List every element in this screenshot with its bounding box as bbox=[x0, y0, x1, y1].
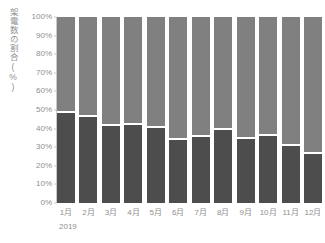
bar-column[interactable]: 6月 bbox=[169, 17, 187, 203]
y-axis-tick-label: 80% bbox=[36, 50, 52, 58]
bar-segment-upper[interactable] bbox=[237, 17, 255, 137]
bar-segment-upper[interactable] bbox=[124, 17, 142, 123]
bar-segment-lower[interactable] bbox=[57, 113, 75, 203]
bar-column[interactable]: 1月 bbox=[57, 17, 75, 203]
bar-column[interactable]: 5月 bbox=[147, 17, 165, 203]
bar-segment-upper[interactable] bbox=[259, 17, 277, 134]
bar-column[interactable]: 3月 bbox=[102, 17, 120, 203]
x-axis-tick-label: 5月 bbox=[150, 208, 162, 217]
bar-segment-lower[interactable] bbox=[124, 125, 142, 203]
bar-segment-lower[interactable] bbox=[169, 140, 187, 203]
x-axis-tick-label: 6月 bbox=[172, 208, 184, 217]
bar-segment-lower[interactable] bbox=[102, 126, 120, 203]
y-axis-title: 架電数の割合(%) bbox=[2, 8, 18, 128]
bar-segment-lower[interactable] bbox=[79, 117, 97, 203]
y-axis-tick-label: 0% bbox=[40, 199, 52, 207]
bar-group: 1月2月3月4月5月6月7月8月9月10月11月12月 bbox=[57, 17, 322, 203]
x-axis-tick-label: 2月 bbox=[82, 208, 94, 217]
x-axis-tick-label: 3月 bbox=[105, 208, 117, 217]
bar-segment-lower[interactable] bbox=[304, 154, 322, 203]
bar-column[interactable]: 2月 bbox=[79, 17, 97, 203]
bar-column[interactable]: 8月 bbox=[214, 17, 232, 203]
bar-segment-upper[interactable] bbox=[79, 17, 97, 115]
bar-column[interactable]: 7月 bbox=[192, 17, 210, 203]
y-axis-tick-label: 20% bbox=[36, 162, 52, 170]
x-axis-tick-label: 12月 bbox=[305, 208, 322, 217]
bar-segment-lower[interactable] bbox=[282, 146, 300, 203]
bar-segment-lower[interactable] bbox=[259, 136, 277, 203]
y-axis-tick-label: 70% bbox=[36, 69, 52, 77]
x-axis-tick-label: 4月 bbox=[127, 208, 139, 217]
y-axis-tick-label: 30% bbox=[36, 143, 52, 151]
bar-segment-lower[interactable] bbox=[237, 139, 255, 203]
bar-segment-upper[interactable] bbox=[169, 17, 187, 138]
bar-segment-upper[interactable] bbox=[282, 17, 300, 144]
period-label: 2019 bbox=[59, 222, 77, 231]
y-axis-tick-label: 10% bbox=[36, 180, 52, 188]
x-axis-tick-label: 10月 bbox=[260, 208, 277, 217]
bar-column[interactable]: 9月 bbox=[237, 17, 255, 203]
x-axis-tick-label: 9月 bbox=[239, 208, 251, 217]
bar-column[interactable]: 10月 bbox=[259, 17, 277, 203]
bar-segment-upper[interactable] bbox=[192, 17, 210, 135]
bar-segment-upper[interactable] bbox=[102, 17, 120, 124]
bar-segment-lower[interactable] bbox=[147, 128, 165, 203]
bar-column[interactable]: 12月 bbox=[304, 17, 322, 203]
bar-segment-upper[interactable] bbox=[214, 17, 232, 128]
bar-column[interactable]: 4月 bbox=[124, 17, 142, 203]
y-axis-tick-label: 50% bbox=[36, 106, 52, 114]
y-axis-tick-label: 100% bbox=[32, 13, 52, 21]
x-axis-tick-label: 11月 bbox=[282, 208, 298, 217]
bar-column[interactable]: 11月 bbox=[282, 17, 300, 203]
x-axis-tick-label: 7月 bbox=[194, 208, 206, 217]
bar-segment-upper[interactable] bbox=[57, 17, 75, 111]
plot-area: 0%10%20%30%40%50%60%70%80%90%100% 1月2月3月… bbox=[57, 17, 322, 203]
bar-segment-lower[interactable] bbox=[214, 130, 232, 203]
x-axis-tick-label: 1月 bbox=[60, 208, 72, 217]
y-axis-tick-label: 60% bbox=[36, 87, 52, 95]
x-axis-tick-label: 8月 bbox=[217, 208, 229, 217]
y-axis-tick-label: 90% bbox=[36, 32, 52, 40]
bar-segment-lower[interactable] bbox=[192, 137, 210, 203]
y-axis-tick-label: 40% bbox=[36, 125, 52, 133]
bar-segment-upper[interactable] bbox=[304, 17, 322, 152]
stacked-bar-chart: 架電数の割合(%) 0%10%20%30%40%50%60%70%80%90%1… bbox=[0, 0, 325, 243]
bar-segment-upper[interactable] bbox=[147, 17, 165, 126]
